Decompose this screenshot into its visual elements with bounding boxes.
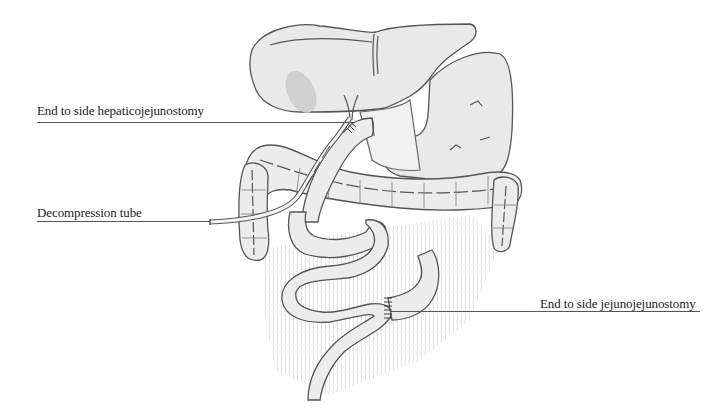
anatomical-illustration [0,0,724,408]
leader-line-decompression-tube [37,221,210,222]
label-jejunojejunostomy: End to side jejunojejunostomy [540,296,696,312]
label-hepaticojejunostomy: End to side hepaticojejunostomy [37,103,204,119]
leader-line-hepaticojejunostomy [37,122,355,123]
ascending-colon [239,163,269,260]
leader-line-jejunojejunostomy [390,311,700,312]
label-decompression-tube: Decompression tube [37,205,142,221]
descending-colon [492,177,519,251]
